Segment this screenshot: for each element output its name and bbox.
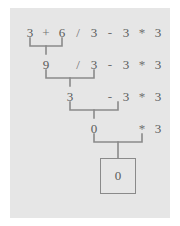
row1-token-6: 3 bbox=[119, 58, 133, 72]
row3-token-0: 0 bbox=[87, 122, 101, 136]
diagram-panel: 3 + 6 / 3 - 3 * 3 9 / 3 - 3 * 3 3 - 3 * … bbox=[10, 8, 170, 218]
row0-token-7: * bbox=[135, 26, 149, 40]
row1-token-8: 3 bbox=[151, 58, 165, 72]
row0-token-0: 3 bbox=[23, 26, 37, 40]
row3-token-7: * bbox=[135, 122, 149, 136]
row1-token-7: * bbox=[135, 58, 149, 72]
row0-token-5: - bbox=[103, 26, 117, 40]
row0-token-2: 6 bbox=[55, 26, 69, 40]
row0-token-4: 3 bbox=[87, 26, 101, 40]
row2-token-0: 3 bbox=[63, 90, 77, 104]
row2-token-6: 3 bbox=[119, 90, 133, 104]
result-box: 0 bbox=[100, 158, 136, 194]
row0-token-6: 3 bbox=[119, 26, 133, 40]
row2-token-5: - bbox=[103, 90, 117, 104]
row0-token-8: 3 bbox=[151, 26, 165, 40]
row2-token-8: 3 bbox=[151, 90, 165, 104]
row1-token-4: 3 bbox=[87, 58, 101, 72]
row2-token-7: * bbox=[135, 90, 149, 104]
row1-token-5: - bbox=[103, 58, 117, 72]
result-value: 0 bbox=[111, 169, 125, 183]
evaluation-diagram: 3 + 6 / 3 - 3 * 3 9 / 3 - 3 * 3 3 - 3 * … bbox=[10, 8, 170, 218]
row1-token-0: 9 bbox=[39, 58, 53, 72]
row1-token-3: / bbox=[71, 58, 85, 72]
row3-token-8: 3 bbox=[151, 122, 165, 136]
row0-token-1: + bbox=[39, 26, 53, 40]
row0-token-3: / bbox=[71, 26, 85, 40]
